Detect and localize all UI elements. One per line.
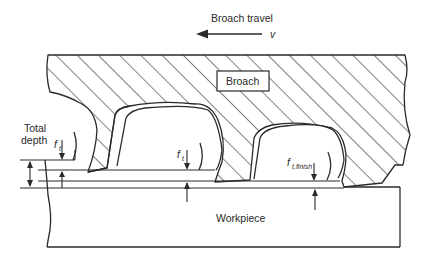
- velocity-label: v: [270, 28, 276, 40]
- workpiece: Workpiece: [20, 160, 400, 247]
- arrowhead-left-icon: [196, 30, 208, 39]
- arrow-down-icon: [27, 180, 33, 187]
- arrow-up-icon: [184, 182, 190, 189]
- travel-label: Broach travel: [211, 12, 273, 24]
- total-depth-label-2: depth: [21, 134, 47, 146]
- total-depth-label-1: Total: [24, 122, 46, 134]
- arrow-down-icon: [59, 153, 65, 160]
- diagram-canvas: Broach travel v Broach Workpiece: [0, 0, 428, 262]
- total-depth-dimension: Total depth: [21, 122, 65, 188]
- workpiece-label: Workpiece: [216, 212, 266, 224]
- arrow-up-icon: [59, 171, 65, 177]
- feed-1-label: f: [54, 138, 58, 150]
- arrow-up-icon: [27, 161, 33, 168]
- feed-finish-subscript: t,finish: [292, 163, 312, 170]
- travel-indicator: Broach travel v: [196, 12, 276, 40]
- broach-label: Broach: [226, 75, 259, 87]
- broach-body: Broach: [47, 55, 410, 187]
- tooth-rise-1: f t: [54, 138, 65, 160]
- broaching-diagram: Broach travel v Broach Workpiece: [0, 0, 428, 262]
